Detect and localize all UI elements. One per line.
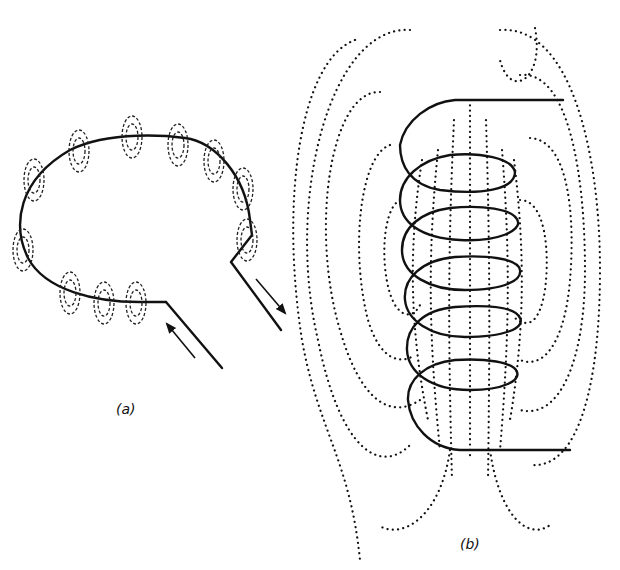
panel-a-label: (a): [116, 401, 136, 417]
loop-lead-in: [166, 302, 222, 368]
solenoid-field-lines: [293, 28, 600, 560]
current-loop-panel: [13, 116, 285, 368]
diagram-canvas: [0, 0, 620, 570]
current-out-arrow: [256, 279, 285, 313]
panel-b-label: (b): [460, 536, 480, 552]
current-in-arrow: [167, 324, 195, 358]
solenoid-coil: [400, 100, 570, 450]
solenoid-panel: [293, 28, 600, 560]
field-rings: [13, 116, 257, 324]
